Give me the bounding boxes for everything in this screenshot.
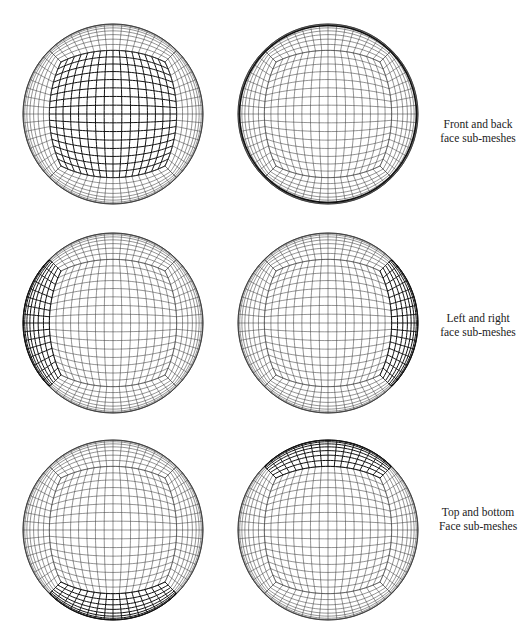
mesh-panel-left: [23, 233, 203, 413]
mesh-panel-right: [238, 233, 418, 413]
caption-front-back: Front and back face sub-meshes: [428, 117, 524, 145]
caption-top-bottom: Top and bottom Face sub-meshes: [428, 505, 524, 533]
caption-line: face sub-meshes: [428, 325, 524, 339]
mesh-panel-front: [23, 24, 203, 204]
caption-left-right: Left and right face sub-meshes: [428, 311, 524, 339]
mesh-panel-back: [238, 24, 418, 204]
mesh-panel-bottom: [23, 440, 203, 620]
caption-line: Face sub-meshes: [428, 519, 524, 533]
caption-line: face sub-meshes: [428, 131, 524, 145]
caption-line: Left and right: [428, 311, 524, 325]
caption-line: Front and back: [428, 117, 524, 131]
caption-line: Top and bottom: [428, 505, 524, 519]
mesh-panel-top: [238, 440, 418, 620]
